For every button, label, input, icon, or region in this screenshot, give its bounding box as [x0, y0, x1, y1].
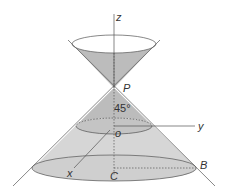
apex-label: P [123, 82, 131, 94]
point-c-label: C [110, 170, 118, 182]
y-axis-label: y [197, 120, 205, 132]
origin-label: o [115, 127, 121, 139]
angle-label: 45° [114, 102, 131, 114]
z-axis-label: z [115, 11, 122, 23]
x-axis-label: x [66, 167, 73, 179]
double-cone-diagram: z P 45° y o B x C [0, 0, 225, 193]
point-b-label: B [200, 159, 207, 171]
